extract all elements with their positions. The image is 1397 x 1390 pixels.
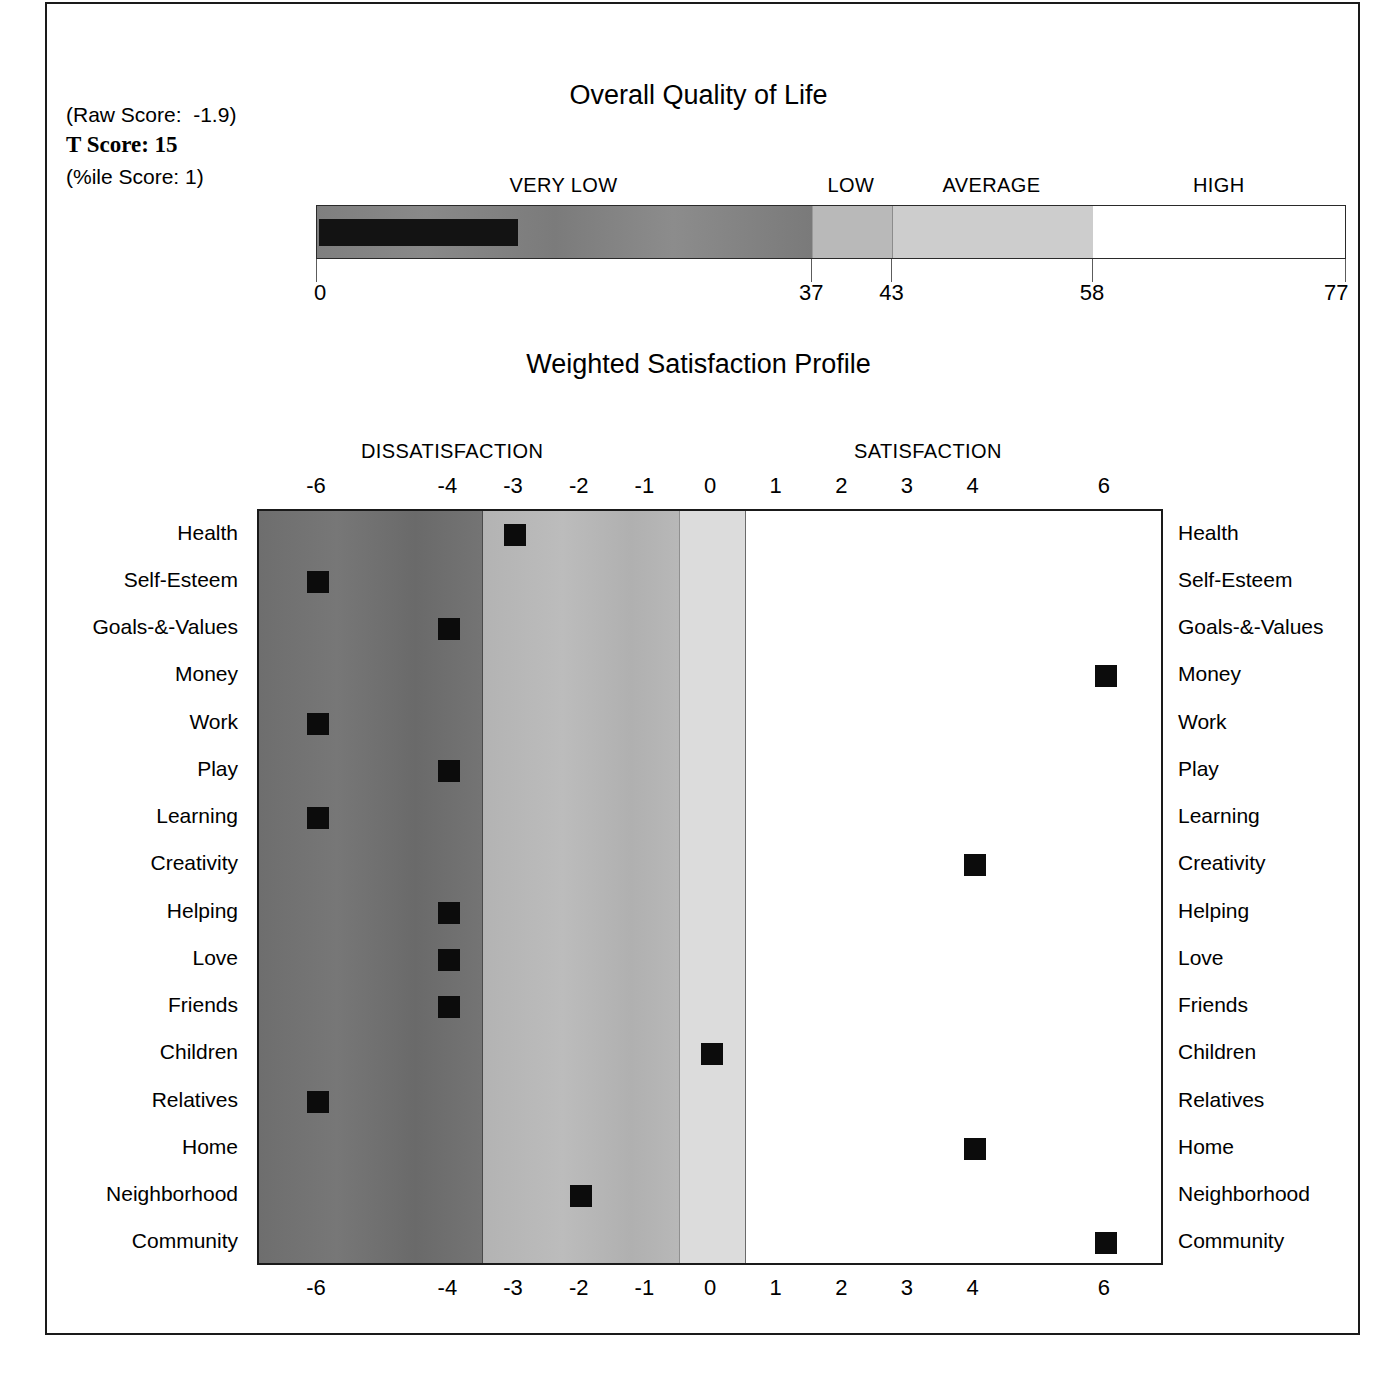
percentile-score-label: (%ile Score: 1)	[66, 162, 236, 191]
oqol-axis-tick-label: 43	[879, 280, 903, 306]
profile-axis-tick-label: -3	[503, 1275, 523, 1301]
profile-axis-tick-label: 2	[835, 473, 847, 499]
profile-row-label-left: Money	[175, 662, 238, 686]
profile-row-label-right: Helping	[1178, 899, 1249, 923]
profile-axis-tick-label: -6	[306, 1275, 326, 1301]
profile-row-label-right: Play	[1178, 757, 1219, 781]
profile-data-marker	[504, 524, 526, 546]
profile-row-label-left: Work	[189, 710, 238, 734]
profile-data-marker	[307, 807, 329, 829]
oqol-axis-tick-label: 37	[799, 280, 823, 306]
profile-row-label-left: Self-Esteem	[124, 568, 238, 592]
wsp-band-positive	[745, 511, 1163, 1263]
profile-data-marker	[307, 713, 329, 735]
profile-row-label-left: Learning	[156, 804, 238, 828]
profile-data-marker	[1095, 1232, 1117, 1254]
profile-row-label-left: Creativity	[150, 851, 238, 875]
profile-data-marker	[307, 1091, 329, 1113]
profile-row-label-right: Neighborhood	[1178, 1182, 1310, 1206]
profile-axis-tick-label: 3	[901, 473, 913, 499]
profile-axis-tick-label: -2	[569, 1275, 589, 1301]
profile-axis-tick-label: 0	[704, 1275, 716, 1301]
oqol-axis-tick	[316, 259, 317, 282]
profile-row-label-left: Community	[132, 1229, 238, 1253]
profile-row-label-left: Goals-&-Values	[92, 615, 238, 639]
profile-row-label-left: Play	[197, 757, 238, 781]
profile-data-marker	[307, 571, 329, 593]
profile-axis-tick-label: 1	[770, 1275, 782, 1301]
profile-data-marker	[438, 618, 460, 640]
oqol-category-label: LOW	[828, 174, 875, 197]
profile-axis-tick-label: 3	[901, 1275, 913, 1301]
profile-data-marker	[438, 902, 460, 924]
oqol-axis-tick	[1092, 259, 1093, 282]
score-summary-block: (Raw Score: -1.9) T Score: 15 (%ile Scor…	[66, 100, 236, 191]
profile-axis-tick-label: 0	[704, 473, 716, 499]
profile-row-label-right: Health	[1178, 521, 1239, 545]
oqol-band-average	[892, 206, 1095, 258]
profile-row-label-left: Health	[177, 521, 238, 545]
wsp-band-neutral	[679, 511, 746, 1263]
profile-axis-tick-label: 4	[966, 473, 978, 499]
profile-axis-tick-label: -1	[635, 1275, 655, 1301]
oqol-axis-tick	[811, 259, 812, 282]
profile-axis-tick-label: -1	[635, 473, 655, 499]
profile-row-label-left: Home	[182, 1135, 238, 1159]
profile-row-label-left: Neighborhood	[106, 1182, 238, 1206]
weighted-satisfaction-profile-title: Weighted Satisfaction Profile	[0, 349, 1397, 380]
profile-row-label-left: Friends	[168, 993, 238, 1017]
profile-data-marker	[964, 1138, 986, 1160]
profile-axis-tick-label: -3	[503, 473, 523, 499]
profile-row-label-left: Children	[160, 1040, 238, 1064]
oqol-axis-tick	[891, 259, 892, 282]
oqol-axis-tick-label: 0	[314, 280, 326, 306]
profile-data-marker	[438, 949, 460, 971]
oqol-category-label: AVERAGE	[943, 174, 1041, 197]
profile-row-label-left: Helping	[167, 899, 238, 923]
oqol-category-label: VERY LOW	[509, 174, 617, 197]
t-score-label: T Score: 15	[66, 129, 236, 161]
profile-row-label-left: Relatives	[152, 1088, 238, 1112]
profile-data-marker	[701, 1043, 723, 1065]
profile-row-label-right: Children	[1178, 1040, 1256, 1064]
oqol-band-bar	[316, 205, 1346, 259]
profile-row-label-right: Relatives	[1178, 1088, 1264, 1112]
satisfaction-heading: SATISFACTION	[854, 440, 1002, 463]
wsp-band-moderate	[482, 511, 680, 1263]
profile-row-label-right: Money	[1178, 662, 1241, 686]
oqol-band-high	[1093, 206, 1346, 258]
profile-row-label-right: Self-Esteem	[1178, 568, 1292, 592]
profile-data-marker	[570, 1185, 592, 1207]
profile-axis-tick-label: 6	[1098, 1275, 1110, 1301]
profile-axis-tick-label: 6	[1098, 473, 1110, 499]
profile-data-marker	[438, 996, 460, 1018]
profile-data-marker	[1095, 665, 1117, 687]
profile-row-label-right: Goals-&-Values	[1178, 615, 1324, 639]
profile-axis-tick-label: -6	[306, 473, 326, 499]
profile-axis-tick-label: 2	[835, 1275, 847, 1301]
oqol-score-marker	[319, 219, 518, 246]
profile-data-marker	[964, 854, 986, 876]
profile-row-label-right: Creativity	[1178, 851, 1266, 875]
profile-data-marker	[438, 760, 460, 782]
overall-quality-of-life-chart: VERY LOWLOWAVERAGEHIGH037435877	[316, 205, 1346, 259]
oqol-axis-tick-label: 58	[1080, 280, 1104, 306]
profile-row-label-right: Love	[1178, 946, 1224, 970]
profile-axis-tick-label: 4	[966, 1275, 978, 1301]
profile-row-label-right: Work	[1178, 710, 1227, 734]
profile-row-label-right: Friends	[1178, 993, 1248, 1017]
dissatisfaction-heading: DISSATISFACTION	[361, 440, 543, 463]
oqol-category-label: HIGH	[1193, 174, 1245, 197]
oqol-band-low	[812, 206, 893, 258]
profile-axis-tick-label: -2	[569, 473, 589, 499]
profile-row-label-right: Home	[1178, 1135, 1234, 1159]
profile-axis-tick-label: 1	[770, 473, 782, 499]
oqol-axis-tick	[1345, 259, 1346, 282]
profile-axis-tick-label: -4	[438, 473, 458, 499]
overall-quality-of-life-title: Overall Quality of Life	[0, 80, 1397, 111]
profile-row-label-right: Learning	[1178, 804, 1260, 828]
profile-row-label-left: Love	[192, 946, 238, 970]
profile-row-label-right: Community	[1178, 1229, 1284, 1253]
oqol-axis-tick-label: 77	[1324, 280, 1348, 306]
weighted-satisfaction-plot	[257, 509, 1163, 1265]
